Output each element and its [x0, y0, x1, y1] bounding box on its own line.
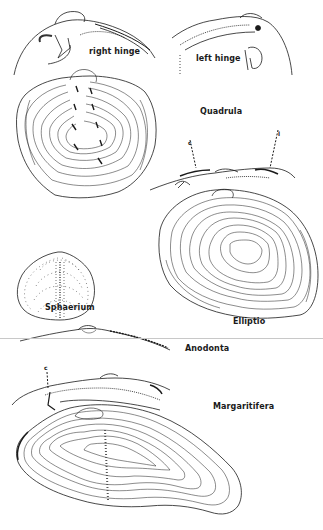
label-anodonta: Anodonta [185, 344, 229, 353]
label-margaritifera-cardinal: c [44, 364, 48, 371]
label-quadrula: Quadrula [200, 107, 242, 116]
label-lateral-tooth: l [278, 130, 280, 137]
label-left-hinge: left hinge [196, 54, 241, 63]
left-hinge-drawing [172, 14, 292, 76]
label-sphaerium: Sphaerium [45, 303, 95, 312]
elliptio-hinge-drawing [150, 130, 295, 190]
margaritifera-shell-drawing [16, 405, 241, 514]
section-divider [0, 338, 323, 339]
label-elliptio: Elliptio [233, 317, 265, 326]
quadrula-shell-drawing [16, 69, 156, 197]
elliptio-shell-drawing [159, 189, 318, 318]
label-cardinal-tooth: c [188, 139, 192, 146]
shell-illustrations [0, 0, 323, 530]
right-hinge-drawing [14, 12, 155, 76]
label-margaritifera: Margaritifera [213, 402, 274, 411]
margaritifera-hinge-drawing [12, 372, 170, 410]
label-right-hinge: right hinge [89, 47, 140, 56]
